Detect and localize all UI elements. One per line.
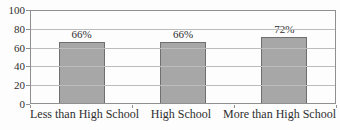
x-axis-labels: Less than High SchoolHigh SchoolMore tha… [30, 108, 336, 121]
x-tick-mark [30, 105, 31, 108]
y-tick-label: 40 [0, 61, 25, 72]
bar-series: 66%66%72% [31, 11, 335, 103]
gridline [31, 66, 335, 67]
bar-slot: 72% [234, 11, 335, 103]
y-tick-mark [26, 29, 30, 30]
gridline [31, 29, 335, 30]
y-tick-label: 60 [0, 43, 25, 54]
y-tick-label: 100 [0, 5, 25, 16]
bar-slot: 66% [31, 11, 132, 103]
bar-value-label: 66% [31, 28, 132, 40]
x-tick-mark [132, 105, 133, 108]
bar-value-label: 66% [132, 28, 233, 40]
y-tick-label: 0 [0, 99, 25, 110]
x-category-label: High School [139, 108, 223, 121]
bar-chart: 020406080100 66%66%72% Less than High Sc… [0, 0, 340, 130]
x-tick-mark [234, 105, 235, 108]
x-tick-mark [336, 105, 337, 108]
y-tick-mark [26, 48, 30, 49]
y-tick-mark [26, 85, 30, 86]
gridline [31, 85, 335, 86]
bar [59, 42, 105, 103]
y-tick-label: 20 [0, 80, 25, 91]
y-tick-label: 80 [0, 24, 25, 35]
bar-slot: 66% [132, 11, 233, 103]
y-tick-mark [26, 66, 30, 67]
x-category-label: Less than High School [30, 108, 139, 121]
gridline [31, 48, 335, 49]
plot-area: 66%66%72% [30, 10, 336, 104]
x-category-label: More than High School [223, 108, 336, 121]
y-tick-mark [26, 10, 30, 11]
bar [160, 42, 206, 103]
